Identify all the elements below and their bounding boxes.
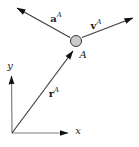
particle-point [71, 36, 82, 47]
x-axis-label: x [75, 126, 81, 136]
velocity-superscript: A [96, 18, 101, 26]
position-vector-line [12, 51, 73, 133]
diagram-svg [0, 0, 139, 147]
position-superscript: A [54, 86, 59, 94]
acceleration-superscript: A [57, 11, 62, 19]
position-vector-label: rA [49, 87, 59, 98]
y-axis-line [12, 76, 13, 133]
particle-label: A [79, 50, 86, 60]
acceleration-vector-label: aA [50, 12, 62, 23]
velocity-vector-label: vA [91, 19, 102, 30]
vector-diagram: aA vA rA A y x [0, 0, 139, 147]
y-axis-label: y [7, 61, 13, 71]
